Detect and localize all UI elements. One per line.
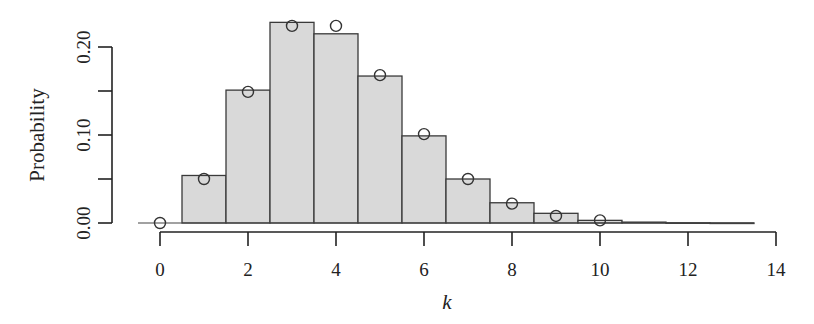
x-tick-label: 8 xyxy=(507,259,517,280)
x-tick-label: 0 xyxy=(155,259,165,280)
probability-point xyxy=(331,20,342,31)
x-tick-label: 10 xyxy=(591,259,610,280)
x-tick-label: 14 xyxy=(767,259,787,280)
histogram-bar xyxy=(182,175,226,223)
histogram-bar xyxy=(402,136,446,223)
histogram-bar xyxy=(226,90,270,223)
probability-histogram-chart: 0.000.100.20 02468101214 Probability k xyxy=(0,0,814,324)
x-axis-title: k xyxy=(442,290,452,314)
histogram-bar xyxy=(490,203,534,223)
y-axis-title: Probability xyxy=(25,88,49,182)
chart-canvas: 0.000.100.20 02468101214 Probability k xyxy=(0,0,814,324)
y-tick-label: 0.10 xyxy=(73,118,94,151)
histogram-bar xyxy=(314,34,358,223)
histogram-bars xyxy=(182,22,754,223)
histogram-bar xyxy=(358,76,402,223)
y-tick-label: 0.00 xyxy=(73,206,94,239)
y-tick-label: 0.20 xyxy=(73,30,94,63)
x-tick-label: 6 xyxy=(419,259,429,280)
y-axis: 0.000.100.20 xyxy=(73,30,112,239)
histogram-bar xyxy=(270,22,314,223)
x-axis: 02468101214 xyxy=(155,232,786,280)
histogram-bar xyxy=(446,179,490,223)
x-tick-label: 12 xyxy=(679,259,698,280)
x-tick-label: 4 xyxy=(331,259,341,280)
x-tick-label: 2 xyxy=(243,259,253,280)
